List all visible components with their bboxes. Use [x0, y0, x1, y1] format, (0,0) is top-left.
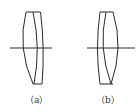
doublet-lens-b [87, 12, 135, 84]
figure-label-b: （b） [96, 93, 120, 106]
doublet-lens-a [10, 12, 52, 84]
figure-label-a: （a） [25, 93, 48, 106]
